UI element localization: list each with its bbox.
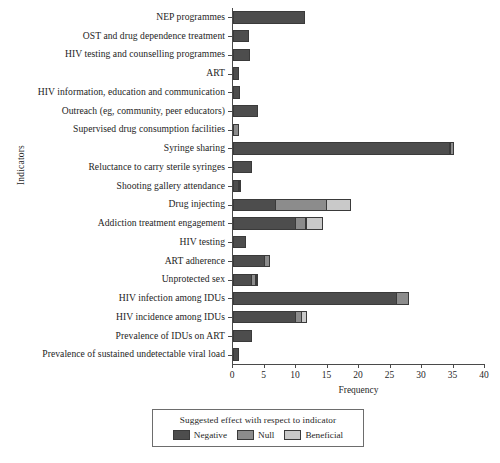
legend-item-null: Null <box>237 430 274 440</box>
x-tick <box>453 364 454 368</box>
bar-row: HIV testing and counselling programmes <box>232 45 484 64</box>
category-label: Outreach (eg, community, peer educators) <box>62 102 225 121</box>
bar-row: Prevalence of sustained undetectable vir… <box>232 345 484 364</box>
y-tick <box>228 17 232 18</box>
category-label: HIV testing <box>180 233 225 252</box>
category-label: Prevalence of sustained undetectable vir… <box>42 345 225 364</box>
bar-segment-null <box>264 255 270 267</box>
x-tick-label: 30 <box>406 370 436 380</box>
y-tick <box>228 317 232 318</box>
y-tick <box>228 355 232 356</box>
bar-segment-negative <box>233 348 239 360</box>
bar-segment-beneficial <box>306 217 324 229</box>
bar-segment-negative <box>233 86 240 98</box>
bar-segment-negative <box>233 11 305 23</box>
x-tick-label: 40 <box>469 370 499 380</box>
y-tick <box>228 242 232 243</box>
stacked-bar <box>233 217 323 229</box>
bar-segment-beneficial <box>326 199 351 211</box>
stacked-bar <box>233 180 241 192</box>
x-tick <box>421 364 422 368</box>
y-tick <box>228 92 232 93</box>
stacked-bar <box>233 330 252 342</box>
stacked-bar <box>233 274 258 286</box>
y-tick <box>228 186 232 187</box>
category-label: HIV infection among IDUs <box>119 289 225 308</box>
bar-segment-negative <box>233 199 276 211</box>
bar-segment-beneficial <box>256 274 259 286</box>
bar-row: Addiction treatment engagement <box>232 214 484 233</box>
bar-row: HIV infection among IDUs <box>232 289 484 308</box>
bar-segment-negative <box>233 30 249 42</box>
y-tick <box>228 280 232 281</box>
y-tick <box>228 36 232 37</box>
category-label: HIV incidence among IDUs <box>116 308 225 327</box>
bar-row: Unprotected sex <box>232 270 484 289</box>
stacked-bar <box>233 142 454 154</box>
x-axis-title: Frequency <box>232 385 485 395</box>
bar-segment-negative <box>233 105 258 117</box>
bar-segment-negative <box>233 67 239 79</box>
legend-label: Negative <box>194 430 227 440</box>
bar-segment-negative <box>233 217 296 229</box>
legend-swatch <box>284 430 301 440</box>
x-tick <box>264 364 265 368</box>
category-label: Unprotected sex <box>162 270 225 289</box>
stacked-bar <box>233 124 239 136</box>
bar-row: ART adherence <box>232 252 484 271</box>
bar-segment-null <box>233 124 239 136</box>
category-label: Reluctance to carry sterile syringes <box>88 158 225 177</box>
bar-row: NEP programmes <box>232 8 484 27</box>
bar-segment-negative <box>233 236 246 248</box>
category-label: OST and drug dependence treatment <box>83 27 225 46</box>
bar-segment-negative <box>233 292 397 304</box>
category-label: Drug injecting <box>169 195 225 214</box>
x-tick <box>358 364 359 368</box>
stacked-bar <box>233 199 351 211</box>
x-tick-label: 10 <box>280 370 310 380</box>
y-tick <box>228 167 232 168</box>
x-tick-label: 5 <box>249 370 279 380</box>
x-tick-label: 0 <box>217 370 247 380</box>
category-label: ART <box>206 64 225 83</box>
legend-swatch <box>173 430 190 440</box>
stacked-bar <box>233 236 246 248</box>
bar-segment-null <box>295 217 306 229</box>
stacked-bar <box>233 86 240 98</box>
bar-segment-negative <box>233 330 252 342</box>
bar-row: Drug injecting <box>232 195 484 214</box>
y-tick <box>228 298 232 299</box>
category-label: ART adherence <box>165 252 225 271</box>
x-tick <box>327 364 328 368</box>
bar-segment-negative <box>233 142 450 154</box>
x-tick-label: 35 <box>438 370 468 380</box>
stacked-bar <box>233 11 305 23</box>
bar-segment-negative <box>233 274 252 286</box>
x-tick-label: 15 <box>312 370 342 380</box>
bar-row: HIV information, education and communica… <box>232 83 484 102</box>
category-label: Supervised drug consumption facilities <box>73 120 225 139</box>
y-tick <box>228 55 232 56</box>
bar-row: HIV incidence among IDUs <box>232 308 484 327</box>
legend-items: NegativeNullBeneficial <box>159 430 357 440</box>
stacked-bar <box>233 292 409 304</box>
stacked-bar <box>233 348 239 360</box>
bar-row: Reluctance to carry sterile syringes <box>232 158 484 177</box>
bar-segment-negative <box>233 311 296 323</box>
stacked-bar <box>233 30 249 42</box>
bar-segment-null <box>396 292 409 304</box>
stacked-bar <box>233 161 252 173</box>
legend-label: Beneficial <box>305 430 343 440</box>
legend-title: Suggested effect with respect to indicat… <box>159 415 357 425</box>
category-label: Prevalence of IDUs on ART <box>116 327 225 346</box>
category-label: Addiction treatment engagement <box>98 214 225 233</box>
y-tick <box>228 336 232 337</box>
legend: Suggested effect with respect to indicat… <box>152 409 364 447</box>
bar-segment-null <box>275 199 327 211</box>
category-label: HIV information, education and communica… <box>38 83 225 102</box>
bar-segment-null <box>450 142 454 154</box>
y-tick <box>228 205 232 206</box>
y-tick <box>228 130 232 131</box>
y-tick <box>228 223 232 224</box>
legend-label: Null <box>258 430 274 440</box>
